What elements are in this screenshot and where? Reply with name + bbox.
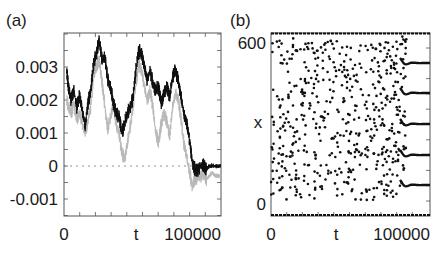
scatter-point: [364, 154, 367, 157]
scatter-point: [304, 124, 307, 127]
scatter-point: [329, 39, 332, 42]
scatter-point: [314, 70, 317, 73]
scatter-point: [316, 49, 319, 52]
scatter-point: [390, 180, 393, 183]
scatter-point: [338, 53, 341, 56]
scatter-point: [282, 153, 285, 156]
scatter-point: [351, 96, 354, 99]
scatter-point: [341, 84, 344, 87]
scatter-point: [390, 97, 393, 100]
scatter-point: [322, 51, 325, 54]
scatter-point: [370, 68, 373, 71]
scatter-point: [303, 48, 306, 51]
scatter-point: [403, 167, 406, 170]
scatter-point: [313, 87, 316, 90]
panel-a-x-label: t: [134, 225, 139, 244]
scatter-point: [338, 168, 341, 171]
scatter-point: [372, 152, 375, 155]
scatter-point: [327, 170, 330, 173]
scatter-point: [391, 130, 394, 133]
scatter-point: [349, 89, 352, 92]
scatter-point: [396, 114, 399, 117]
scatter-point: [359, 163, 362, 166]
scatter-point: [403, 110, 406, 113]
scatter-point: [303, 95, 306, 98]
scatter-point: [346, 69, 349, 72]
panel-b-ticks: [287, 48, 430, 216]
scatter-point: [335, 70, 338, 73]
scatter-point: [324, 178, 327, 181]
scatter-point: [349, 58, 352, 61]
panel-b-y-label: x: [254, 113, 263, 132]
scatter-point: [295, 178, 298, 181]
scatter-point: [365, 119, 368, 122]
scatter-point: [287, 93, 290, 96]
scatter-point: [382, 60, 385, 63]
scatter-point: [382, 87, 385, 90]
scatter-point: [392, 46, 395, 49]
scatter-point: [278, 189, 281, 192]
scatter-point: [382, 164, 385, 167]
scatter-point: [271, 146, 274, 149]
scatter-point: [345, 76, 348, 79]
converged-level-line: [400, 180, 430, 186]
scatter-point: [334, 135, 337, 138]
scatter-point: [365, 71, 368, 74]
figure: (a) 0.0030.0020.0010-0.001 0 t 100000 (b…: [0, 0, 446, 253]
converged-level-line: [400, 150, 430, 156]
scatter-point: [386, 52, 389, 55]
scatter-point: [317, 57, 320, 60]
scatter-point: [293, 162, 296, 165]
scatter-point: [288, 81, 291, 84]
scatter-point: [298, 138, 301, 141]
scatter-point: [397, 99, 400, 102]
scatter-point: [314, 153, 317, 156]
scatter-point: [356, 143, 359, 146]
scatter-point: [315, 78, 318, 81]
scatter-point: [276, 182, 279, 185]
scatter-point: [314, 157, 317, 160]
scatter-point: [393, 97, 396, 100]
scatter-point: [366, 107, 369, 110]
scatter-point: [351, 188, 354, 191]
scatter-point: [334, 170, 337, 173]
scatter-point: [389, 55, 392, 58]
scatter-point: [394, 145, 397, 148]
scatter-point: [390, 150, 393, 153]
scatter-point: [341, 193, 344, 196]
converged-level-line: [400, 119, 430, 125]
scatter-point: [326, 41, 329, 44]
scatter-point: [318, 133, 321, 136]
scatter-point: [292, 37, 295, 40]
scatter-point: [388, 155, 391, 158]
panel-b-y-tick-600: 600: [238, 34, 266, 53]
scatter-point: [350, 131, 353, 134]
scatter-point: [299, 48, 302, 51]
y-tick-label: 0.001: [15, 124, 58, 143]
converged-level-line: [400, 88, 430, 94]
scatter-point: [360, 198, 363, 201]
scatter-point: [322, 67, 325, 70]
panel-b-x-tick-100000: 100000: [373, 225, 430, 244]
scatter-point: [358, 116, 361, 119]
scatter-point: [295, 169, 298, 172]
scatter-point: [381, 118, 384, 121]
scatter-point: [377, 154, 380, 157]
panel-b-y-tick-0: 0: [257, 195, 266, 214]
scatter-point: [381, 151, 384, 154]
scatter-point: [343, 181, 346, 184]
scatter-point: [279, 116, 282, 119]
scatter-point: [289, 156, 292, 159]
scatter-point: [327, 172, 330, 175]
scatter-point: [401, 35, 404, 38]
scatter-point: [287, 111, 290, 114]
scatter-point: [392, 157, 395, 160]
scatter-point: [325, 164, 328, 167]
scatter-point: [336, 188, 339, 191]
scatter-point: [385, 69, 388, 72]
scatter-point: [340, 64, 343, 67]
scatter-point: [396, 174, 399, 177]
scatter-point: [370, 44, 373, 47]
scatter-point: [347, 176, 350, 179]
scatter-point: [380, 124, 383, 127]
